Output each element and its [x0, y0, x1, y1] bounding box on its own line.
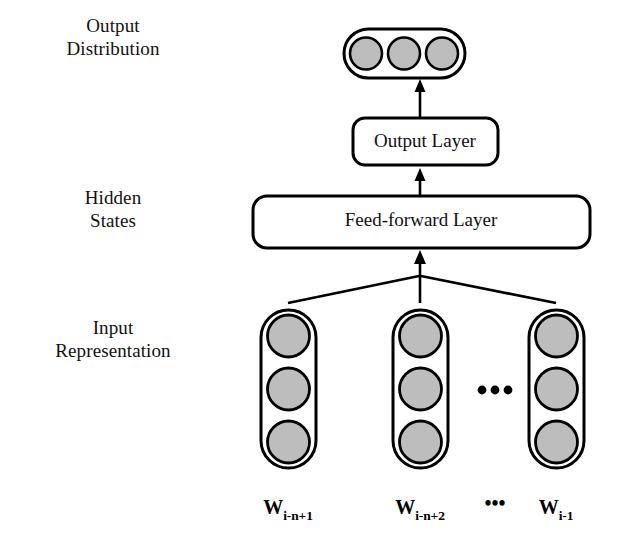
output-distribution-group: [344, 29, 465, 78]
input-unit-circle: [536, 315, 578, 357]
input-column-1: [261, 310, 316, 468]
word-base: W: [263, 496, 283, 518]
input-word-label-ellipsis: •••: [470, 492, 520, 515]
label-output-distribution: Output Distribution: [8, 14, 218, 60]
input-column-2: [393, 310, 448, 468]
label-input-representation: Input Representation: [4, 316, 222, 362]
output-unit-circle: [426, 38, 458, 70]
arrow-output-layer-to-distribution: [415, 79, 426, 118]
input-column-3: [529, 310, 584, 468]
output-unit-circle: [350, 38, 382, 70]
input-unit-circle: [268, 315, 310, 357]
input-unit-circle: [400, 315, 442, 357]
word-subscript: i-n+2: [415, 508, 445, 523]
architecture-diagram-svg: [0, 0, 625, 551]
feed-forward-layer-box: [253, 196, 590, 248]
feed-forward-layer-box-group: [253, 196, 590, 248]
column-ellipsis: [478, 386, 513, 395]
input-unit-circle: [268, 421, 310, 463]
fan-in-connectors: [288, 250, 556, 303]
input-unit-circle: [268, 368, 310, 410]
output-layer-box: [353, 118, 498, 165]
diagram-canvas: Output Distribution Hidden States Input …: [0, 0, 625, 551]
arrow-feedforward-to-output-layer: [415, 168, 426, 195]
output-layer-box-group: [353, 118, 498, 165]
word-subscript: i-n+1: [283, 508, 313, 523]
label-hidden-states: Hidden States: [8, 186, 218, 232]
fan-branch-right: [421, 276, 556, 303]
input-unit-circle: [536, 421, 578, 463]
input-word-label-2: Wi-n+2: [360, 496, 480, 524]
word-subscript: i-1: [559, 508, 574, 523]
output-unit-circle: [388, 38, 420, 70]
input-unit-circle: [536, 368, 578, 410]
fan-branch-left: [288, 276, 419, 303]
fan-stem-arrowhead: [414, 250, 426, 264]
word-base: W: [539, 496, 559, 518]
input-unit-circle: [400, 421, 442, 463]
input-unit-circle: [400, 368, 442, 410]
word-base: W: [395, 496, 415, 518]
input-word-label-1: Wi-n+1: [228, 496, 348, 524]
